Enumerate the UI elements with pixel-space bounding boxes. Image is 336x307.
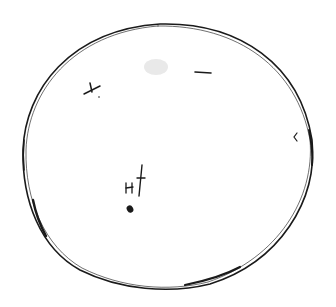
disk-outline — [23, 24, 313, 289]
smudge — [144, 59, 168, 75]
upper-left-mark — [84, 83, 100, 98]
upper-right-dash — [195, 72, 211, 73]
right-edge-tick — [294, 133, 297, 141]
center-group-mark — [126, 165, 145, 196]
center-dot — [125, 204, 134, 214]
sketch-canvas — [0, 0, 336, 307]
